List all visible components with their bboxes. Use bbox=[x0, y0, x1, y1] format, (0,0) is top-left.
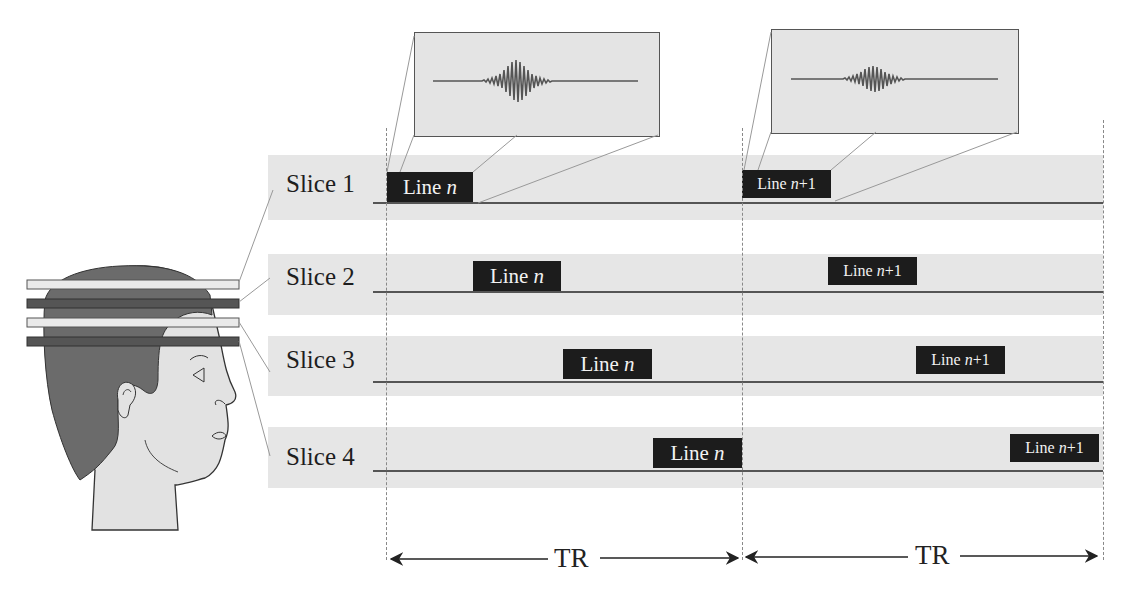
slice-3-label: Slice 3 bbox=[286, 346, 355, 374]
face-outline bbox=[62, 266, 236, 530]
ear bbox=[117, 382, 135, 417]
slab-2 bbox=[27, 299, 239, 308]
slice-1-label: Slice 1 bbox=[286, 170, 355, 198]
slab-3 bbox=[27, 318, 239, 327]
slice-2-label: Slice 2 bbox=[286, 263, 355, 291]
slice-3-timeline bbox=[373, 381, 1103, 383]
tr-boundary-1 bbox=[386, 128, 387, 560]
slice-1-line-n: Line n bbox=[387, 172, 473, 202]
tr-boundary-3 bbox=[1103, 120, 1104, 560]
slice-4-line-n-plus-1: Line n+1 bbox=[1010, 434, 1099, 462]
slice-4-timeline bbox=[373, 470, 1103, 472]
slice-3-line-n: Line n bbox=[563, 349, 652, 379]
slice-3-line-n-plus-1: Line n+1 bbox=[916, 346, 1005, 374]
slab-4 bbox=[27, 337, 239, 346]
slice-2-line-n: Line n bbox=[473, 261, 561, 291]
slice-2-timeline bbox=[373, 291, 1103, 293]
echo-inset-line-n bbox=[414, 32, 660, 137]
tr-boundary-2 bbox=[742, 128, 743, 560]
eye bbox=[193, 368, 204, 382]
slice-band-2 bbox=[268, 254, 1103, 315]
slice-1-timeline bbox=[373, 202, 1103, 204]
slice-1-line-n-plus-1: Line n+1 bbox=[742, 170, 831, 198]
echo-inset-line-n-plus-1 bbox=[771, 29, 1019, 134]
slab-1 bbox=[27, 280, 239, 289]
slice-4-label: Slice 4 bbox=[286, 443, 355, 471]
slice-2-line-n-plus-1: Line n+1 bbox=[828, 257, 917, 285]
tr-label-2: TR bbox=[915, 540, 950, 571]
head-illustration bbox=[27, 266, 239, 530]
hair bbox=[44, 266, 212, 480]
slab-leader-lines bbox=[239, 190, 273, 456]
tr-label-1: TR bbox=[554, 543, 589, 574]
slice-4-line-n: Line n bbox=[653, 438, 742, 468]
